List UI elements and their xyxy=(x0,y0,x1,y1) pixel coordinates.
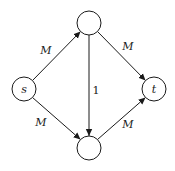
node-top xyxy=(77,11,101,35)
flow-network-diagram: s t M M 1 M M xyxy=(0,0,175,171)
edge-s-top-label: M xyxy=(39,44,52,57)
edge-s-bottom-label: M xyxy=(34,116,47,129)
edge-top-bottom-label: 1 xyxy=(93,84,100,97)
edge-top-to-t xyxy=(98,32,146,81)
edge-top-t-label: M xyxy=(121,40,134,53)
node-bottom xyxy=(77,136,101,160)
edge-bottom-t-label: M xyxy=(121,118,134,131)
node-s-label: s xyxy=(21,83,27,96)
node-t-label: t xyxy=(152,83,157,96)
